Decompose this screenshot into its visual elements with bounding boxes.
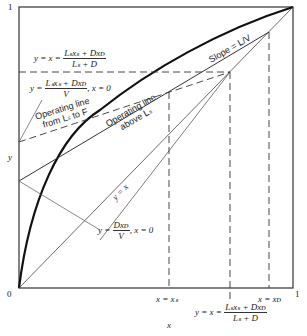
q-line: [100, 72, 230, 240]
feed-intersection-label: y = x = Lₛxₛ + DxᴅLₛ + D: [34, 48, 106, 69]
y-axis-label: y: [8, 152, 12, 162]
lower-intercept-label: y = DxᴅV, x = 0: [98, 220, 153, 241]
x-xs-label: x = xₛ: [156, 294, 178, 304]
upper-intercept-label: y = Lₛxₛ + DxᴅV, x = 0: [30, 78, 111, 99]
x-axis-label: x: [167, 320, 171, 330]
y-tick-1: 1: [8, 2, 13, 12]
x-tick-1: 1: [295, 289, 300, 299]
x-tick-0: 0: [7, 289, 12, 299]
bottom-intersection-label: y = x = Lₛxₛ + DxᴅLₛ + D: [195, 302, 267, 323]
